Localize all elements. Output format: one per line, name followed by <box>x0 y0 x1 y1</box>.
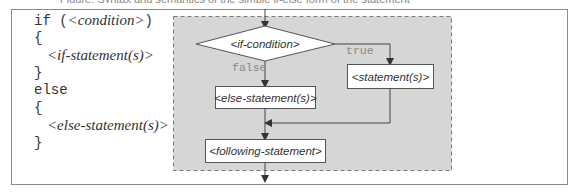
flowchart: <if-condition> true <statement(s)> false… <box>0 0 579 196</box>
else-statements-label: <else-statement(s)> <box>214 92 317 104</box>
following-statement-label: <following-statement> <box>209 145 322 157</box>
condition-label: <if-condition> <box>230 38 299 50</box>
statements-label: <statement(s)> <box>352 71 430 83</box>
true-label: true <box>346 44 374 57</box>
false-label: false <box>232 61 267 74</box>
